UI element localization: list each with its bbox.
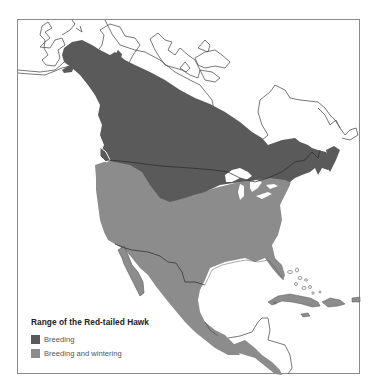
puerto-rico <box>352 297 360 302</box>
legend-label: Breeding <box>44 335 74 344</box>
alaska-peninsula-breeding <box>62 66 74 73</box>
map-legend: Range of the Red-tailed Hawk Breeding Br… <box>31 317 149 361</box>
legend-item-breeding-wintering: Breeding and wintering <box>31 347 149 360</box>
central-america-range <box>232 340 282 375</box>
cuba <box>268 294 320 307</box>
hispaniola <box>322 298 345 307</box>
legend-label: Breeding and wintering <box>44 349 122 358</box>
jamaica <box>301 313 310 317</box>
breeding-wintering-swatch <box>31 349 40 358</box>
alaska-north-coast <box>40 22 65 66</box>
legend-item-breeding: Breeding <box>31 333 149 346</box>
newfoundland <box>326 146 340 172</box>
legend-title: Range of the Red-tailed Hawk <box>31 317 149 327</box>
breeding-swatch <box>31 335 40 344</box>
